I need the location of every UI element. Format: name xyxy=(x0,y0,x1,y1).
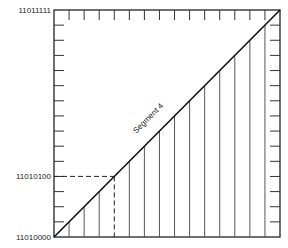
y-label-top: 11011111 xyxy=(18,6,51,15)
vertical-drop-lines xyxy=(69,25,265,237)
top-axis-ticks xyxy=(69,10,265,20)
segment-4-line xyxy=(54,10,280,237)
y-label-bottom: 11010000 xyxy=(16,233,52,242)
left-axis-ticks xyxy=(54,25,64,222)
segment-diagram: 11011111 11010100 11010000 Segment 4 xyxy=(0,0,288,248)
y-label-mid: 11010100 xyxy=(16,172,52,181)
right-axis-ticks xyxy=(270,25,280,222)
